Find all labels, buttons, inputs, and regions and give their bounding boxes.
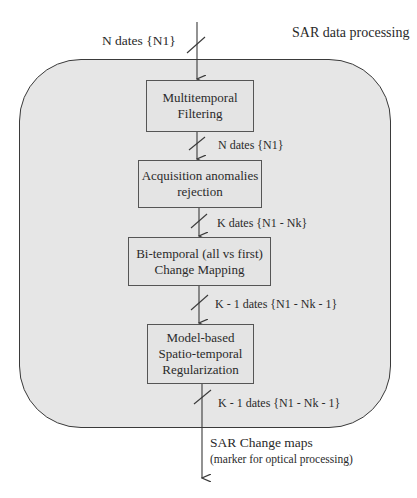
step-multitemporal-filtering: Multitemporal Filtering — [146, 80, 254, 132]
step-label-line: Acquisition anomalies — [142, 168, 259, 184]
bus-slash-icon — [187, 37, 205, 53]
step-label-line: Multitemporal — [162, 90, 237, 106]
step-label-line: rejection — [177, 184, 222, 200]
edge-label-step4-output: K - 1 dates {N1 - Nk - 1} — [218, 396, 340, 411]
step-label-line: Bi-temporal (all vs first) — [136, 246, 263, 262]
step-label-line: Spatio-temporal — [159, 346, 243, 362]
edge-label-step2-step3: K dates {N1 - Nk} — [217, 216, 307, 231]
step-acquisition-anomalies-rejection: Acquisition anomalies rejection — [138, 160, 262, 208]
edge-label-step1-step2: N dates {N1} — [218, 138, 284, 153]
step-label-line: Change Mapping — [155, 262, 245, 278]
container-title: SAR data processing — [292, 25, 409, 40]
edge-label-step3-step4: K - 1 dates {N1 - Nk - 1} — [215, 297, 337, 312]
output-sublabel: (marker for optical processing) — [210, 452, 353, 467]
output-label: SAR Change maps — [210, 435, 313, 450]
step-label-line: Filtering — [178, 106, 223, 122]
step-label-line: Regularization — [162, 362, 239, 378]
diagram-canvas: SAR data processing N dates {N1} Multite… — [0, 0, 417, 498]
step-spatiotemporal-regularization: Model-based Spatio-temporal Regularizati… — [147, 324, 254, 384]
input-label: N dates {N1} — [102, 33, 176, 48]
step-label-line: Model-based — [167, 330, 235, 346]
step-bitemporal-change-mapping: Bi-temporal (all vs first) Change Mappin… — [128, 237, 271, 286]
